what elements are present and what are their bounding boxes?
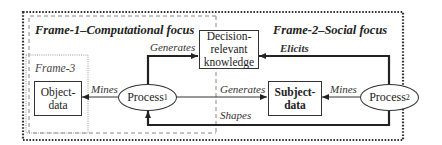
edge-p2-elicits-decision bbox=[259, 56, 389, 84]
process1-node: Process1 bbox=[118, 84, 177, 111]
object-data-line1: Object- bbox=[41, 86, 75, 99]
edge-label-shapes: Shapes bbox=[220, 110, 251, 121]
process2-subscript: 2 bbox=[406, 93, 410, 102]
process2-label: Process bbox=[369, 90, 406, 105]
edge-label-elicits: Elicits bbox=[280, 43, 309, 54]
process1-subscript: 1 bbox=[164, 93, 168, 102]
subject-data-line1: Subject- bbox=[275, 86, 316, 99]
frame1-title: Frame-1–Computational focus bbox=[35, 24, 194, 37]
edge-p1-generates-decision bbox=[148, 56, 198, 84]
edge-label-mines-subject: Mines bbox=[330, 84, 357, 95]
subject-data-line2: data bbox=[284, 99, 306, 112]
process1-label: Process bbox=[127, 90, 164, 105]
frame2-title: Frame-2–Social focus bbox=[273, 24, 387, 37]
process2-node: Process2 bbox=[360, 84, 419, 111]
decision-line2: relevant bbox=[210, 43, 247, 56]
object-data-line2: data bbox=[48, 99, 67, 112]
decision-line1: Decision- bbox=[207, 30, 252, 43]
decision-knowledge-node: Decision- relevant knowledge bbox=[199, 30, 259, 69]
subject-data-node: Subject- data bbox=[268, 81, 322, 116]
edge-label-mines-object: Mines bbox=[91, 84, 118, 95]
object-data-node: Object- data bbox=[34, 81, 82, 116]
edge-label-generates-subject: Generates bbox=[220, 84, 265, 95]
edge-label-generates-decision: Generates bbox=[150, 42, 195, 53]
frame3-title: Frame-3 bbox=[35, 63, 75, 75]
decision-line3: knowledge bbox=[204, 56, 254, 69]
